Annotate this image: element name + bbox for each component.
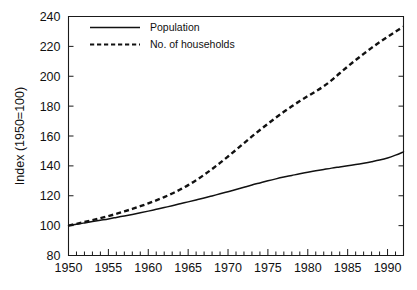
y-tick-label: 140 [40,159,61,173]
legend-label-no-of-households: No. of households [150,38,235,50]
y-tick-label: 100 [40,219,61,233]
y-tick-label: 220 [40,40,61,54]
x-tick-label: 1975 [254,261,282,275]
y-axis-title: Index (1950=100) [13,87,27,185]
x-tick-label: 1960 [134,261,162,275]
x-tick-label: 1950 [55,261,83,275]
x-axis-tick-labels: 195019551960196519701975198019851990 [55,261,402,275]
x-tick-label: 1990 [374,261,402,275]
legend-label-population: Population [150,21,200,33]
y-tick-label: 160 [40,130,61,144]
y-tick-label: 120 [40,189,61,203]
line-chart-figure: 80100120140160180200220240 1950195519601… [0,0,417,290]
x-tick-label: 1985 [334,261,362,275]
y-tick-label: 200 [40,70,61,84]
y-axis-tick-labels: 80100120140160180200220240 [40,10,61,263]
y-tick-label: 180 [40,100,61,114]
x-tick-label: 1980 [294,261,322,275]
x-tick-label: 1965 [174,261,202,275]
x-tick-label: 1955 [94,261,122,275]
x-tick-label: 1970 [214,261,242,275]
chart-canvas: 80100120140160180200220240 1950195519601… [0,0,417,290]
y-tick-label: 240 [40,10,61,24]
